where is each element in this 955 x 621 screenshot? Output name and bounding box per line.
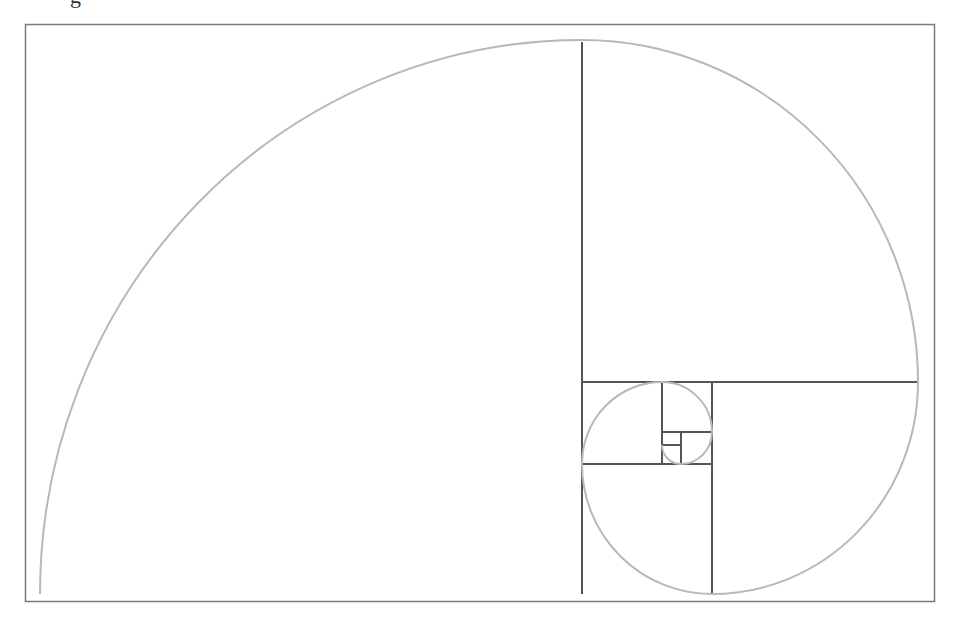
spiral-arc-1: [40, 40, 582, 594]
spiral-arc-4: [582, 464, 712, 594]
frame-border: [26, 25, 935, 602]
spiral-arc-6: [662, 382, 712, 432]
spiral-arc-7: [681, 432, 712, 464]
spiral-arc-5: [582, 382, 662, 464]
golden-spiral-curve: [40, 40, 918, 594]
square-division-lines: [582, 42, 918, 594]
spiral-arc-2: [582, 40, 918, 382]
golden-spiral-diagram: [0, 0, 955, 621]
spiral-arc-8: [662, 445, 681, 464]
spiral-arc-3: [712, 382, 918, 594]
